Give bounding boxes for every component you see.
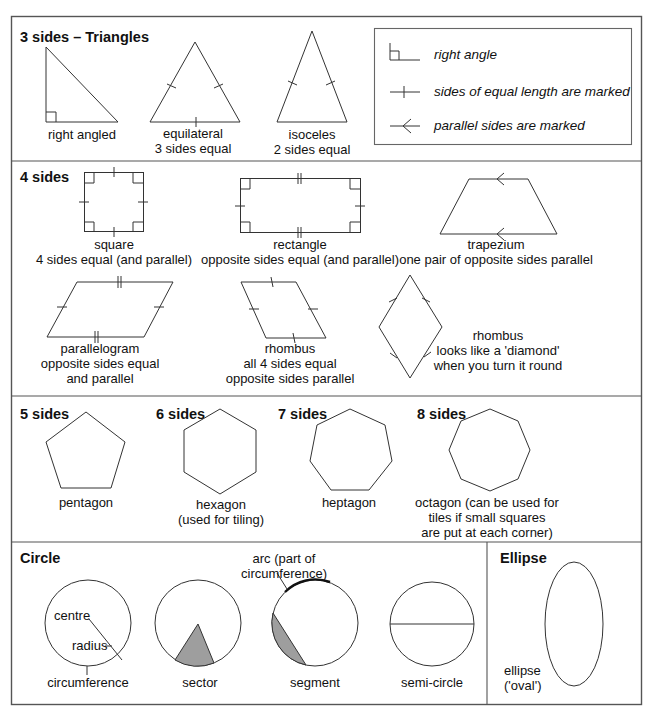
section-four-sides: 4 sides square 4 sides equal (and parall… bbox=[20, 167, 593, 386]
label-parallelogram-desc: opposite sides equal bbox=[41, 356, 160, 371]
section-ellipse: Ellipse ellipse ('oval') bbox=[500, 550, 603, 693]
heading-6-sides: 6 sides bbox=[156, 406, 205, 422]
label-segment: segment bbox=[290, 675, 340, 690]
octagon: 8 sides octagon (can be used for tiles i… bbox=[415, 406, 559, 540]
legend-item-parallel: parallel sides are marked bbox=[390, 118, 585, 133]
label-octagon: octagon (can be used for bbox=[415, 495, 559, 510]
label-square-desc: 4 sides equal (and parallel) bbox=[36, 252, 192, 267]
label-semicircle: semi-circle bbox=[401, 675, 463, 690]
label-parallelogram-desc2: and parallel bbox=[66, 371, 133, 386]
rhombus: rhombus all 4 sides equal opposite sides… bbox=[226, 277, 355, 386]
rhombus-diamond: rhombus looks like a 'diamond' when you … bbox=[379, 275, 562, 378]
label-isoceles: isoceles bbox=[289, 127, 336, 142]
label-sector: sector bbox=[182, 675, 218, 690]
legend: right angle sides of equal length are ma… bbox=[375, 29, 632, 145]
trapezium-shape bbox=[440, 179, 557, 234]
label-ellipse-desc: ('oval') bbox=[504, 678, 541, 693]
label-octagon-desc2: are put at each corner) bbox=[421, 525, 553, 540]
trapezium: trapezium one pair of opposite sides par… bbox=[399, 173, 593, 267]
label-circumference: circumference bbox=[47, 675, 129, 690]
label-rhombus-diamond: rhombus bbox=[473, 328, 524, 343]
equilateral-triangle: equilateral 3 sides equal bbox=[150, 42, 240, 156]
pentagon: 5 sides pentagon bbox=[20, 406, 125, 510]
label-arc-line1: arc (part of bbox=[253, 551, 316, 566]
section-heading-circle: Circle bbox=[20, 550, 60, 566]
label-centre: centre bbox=[54, 608, 90, 623]
label-rhombus-desc2: opposite sides parallel bbox=[226, 371, 355, 386]
section-heading-ellipse: Ellipse bbox=[500, 550, 547, 566]
right-triangle-shape bbox=[46, 47, 118, 122]
octagon-shape bbox=[449, 409, 530, 491]
rhombus-shape bbox=[241, 282, 326, 338]
legend-label: sides of equal length are marked bbox=[434, 84, 630, 99]
heading-7-sides: 7 sides bbox=[278, 406, 327, 422]
shapes-diagram: 3 sides – Triangles right angled equilat… bbox=[0, 0, 651, 714]
isoceles-shape bbox=[277, 31, 347, 122]
label-parallelogram: parallelogram bbox=[61, 341, 140, 356]
label-pentagon: pentagon bbox=[59, 495, 113, 510]
label-hexagon: hexagon bbox=[196, 497, 246, 512]
section-polygons: 5 sides pentagon 6 sides hexagon (used f… bbox=[20, 406, 560, 540]
label-rectangle-desc: opposite sides equal (and parallel) bbox=[201, 252, 399, 267]
right-angle-box bbox=[390, 51, 399, 60]
label-trapezium-desc: one pair of opposite sides parallel bbox=[399, 252, 593, 267]
label-rectangle: rectangle bbox=[273, 237, 326, 252]
legend-item-right-angle: right angle bbox=[390, 43, 497, 62]
diamond-shape bbox=[379, 275, 442, 378]
section-heading-triangles: 3 sides – Triangles bbox=[20, 29, 149, 45]
label-trapezium: trapezium bbox=[467, 237, 524, 252]
label-radius: radius bbox=[72, 638, 108, 653]
sector: sector bbox=[155, 580, 241, 690]
pentagon-shape bbox=[46, 412, 125, 488]
label-equilateral-desc: 3 sides equal bbox=[155, 141, 232, 156]
heading-8-sides: 8 sides bbox=[417, 406, 466, 422]
rectangle-shape bbox=[241, 179, 361, 233]
section-heading-four-sides: 4 sides bbox=[20, 169, 69, 185]
label-rhombus-diamond-desc: looks like a 'diamond' bbox=[437, 343, 560, 358]
section-triangles: 3 sides – Triangles right angled equilat… bbox=[20, 29, 632, 158]
circle-parts: centre radius circumference bbox=[45, 580, 131, 690]
legend-label: parallel sides are marked bbox=[433, 118, 585, 133]
section-circle: Circle centre radius circumference secto… bbox=[20, 550, 474, 690]
heptagon: 7 sides heptagon bbox=[278, 406, 392, 510]
label-heptagon: heptagon bbox=[322, 495, 376, 510]
parallelogram: parallelogram opposite sides equal and p… bbox=[41, 276, 173, 386]
label-isoceles-desc: 2 sides equal bbox=[274, 142, 351, 157]
circle-shape bbox=[45, 580, 131, 666]
ellipse-shape bbox=[545, 562, 603, 686]
label-arc-line2: circumference) bbox=[241, 566, 327, 581]
square-shape bbox=[85, 173, 144, 232]
label-rhombus: rhombus bbox=[265, 341, 316, 356]
isoceles-triangle: isoceles 2 sides equal bbox=[274, 31, 351, 157]
equilateral-shape bbox=[150, 42, 240, 122]
parallelogram-shape bbox=[47, 282, 173, 337]
label-square: square bbox=[94, 237, 134, 252]
label-hexagon-desc: (used for tiling) bbox=[178, 512, 264, 527]
right-angled-triangle: right angled bbox=[46, 47, 118, 142]
hexagon: 6 sides hexagon (used for tiling) bbox=[156, 406, 264, 527]
label-equilateral: equilateral bbox=[163, 126, 223, 141]
label-rhombus-diamond-desc2: when you turn it round bbox=[433, 358, 563, 373]
label-right-angled: right angled bbox=[48, 127, 116, 142]
label-octagon-desc: tiles if small squares bbox=[428, 510, 546, 525]
heading-5-sides: 5 sides bbox=[20, 406, 69, 422]
segment: arc (part of circumference) segment bbox=[241, 551, 358, 690]
rectangle: rectangle opposite sides equal (and para… bbox=[201, 173, 399, 267]
legend-item-equal-length: sides of equal length are marked bbox=[390, 84, 630, 99]
semi-circle: semi-circle bbox=[390, 582, 474, 690]
legend-label: right angle bbox=[434, 47, 497, 62]
label-rhombus-desc: all 4 sides equal bbox=[243, 356, 336, 371]
label-ellipse: ellipse bbox=[504, 663, 541, 678]
